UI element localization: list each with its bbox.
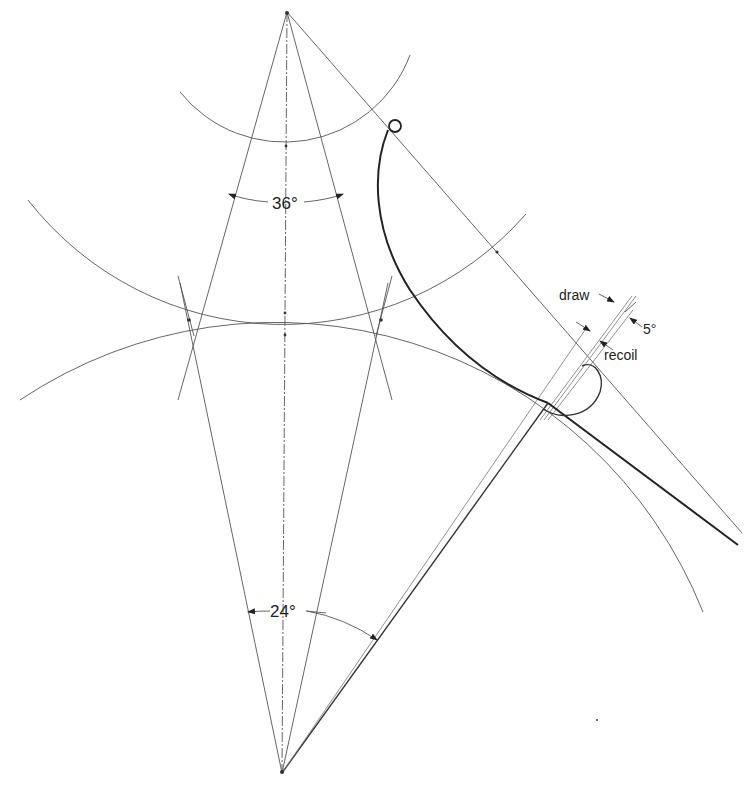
top-diagonal-tangent-line — [287, 12, 742, 533]
top-apex — [285, 11, 289, 15]
vertical-centerline — [282, 12, 287, 773]
draw-leader — [599, 294, 614, 302]
lower-angle-label: 24° — [270, 602, 296, 621]
intersection-marks — [178, 11, 499, 774]
bottom-apex — [280, 770, 284, 774]
top-right-radial-line — [287, 12, 392, 400]
point-center-upper — [284, 312, 287, 315]
top-left-radial-line — [178, 12, 287, 400]
draw-recoil-annotation: draw 5° recoil — [559, 287, 656, 363]
draw-label: draw — [559, 287, 590, 303]
five-degree-leader — [630, 318, 642, 327]
upper-wheel-arc — [28, 200, 526, 324]
upper-angle-label: 36° — [272, 194, 298, 213]
lower-pallet-arc — [20, 322, 703, 612]
five-degree-label: 5° — [643, 321, 656, 337]
recoil-label: recoil — [604, 347, 637, 363]
small-top-arc — [180, 55, 410, 142]
pallet-semicircle — [543, 365, 601, 416]
stray-dot — [596, 719, 598, 721]
bottom-apex-lines — [180, 283, 636, 773]
lower-angle-arc-right — [307, 611, 377, 640]
pivot-circle — [389, 120, 401, 132]
point-left — [187, 318, 191, 322]
pallet-arm-thin-line — [282, 330, 585, 773]
point-tangent-intersection — [495, 250, 498, 253]
left-tick — [178, 276, 194, 336]
recoil-leader-left — [576, 322, 590, 331]
construction-arcs — [20, 55, 703, 612]
lower-angle-dimension: 24° — [248, 602, 377, 640]
bottom-left-radial-line — [180, 283, 282, 773]
top-apex-lines — [178, 12, 742, 773]
point-center-lower — [284, 334, 287, 337]
point-right — [379, 318, 383, 322]
pallet-straight-tail — [548, 403, 738, 545]
lower-angle-arc-left — [248, 611, 270, 612]
upper-angle-dimension: 36° — [229, 194, 343, 213]
pallet-profile — [378, 120, 738, 545]
point-top-arc-center — [285, 145, 288, 148]
escapement-construction-diagram: 36° 24° draw 5° recoil — [0, 0, 755, 790]
